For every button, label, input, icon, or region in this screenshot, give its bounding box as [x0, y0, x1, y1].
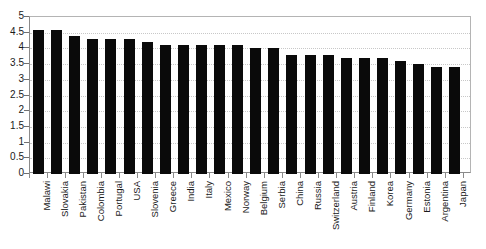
y-axis-tick-label: 1: [0, 137, 24, 147]
bar: [160, 45, 171, 174]
bar: [305, 55, 316, 174]
x-axis-tick-mark: [101, 173, 102, 178]
x-axis-tick-mark: [137, 173, 138, 178]
bar: [250, 48, 261, 174]
x-axis-tick-mark: [155, 173, 156, 178]
bar-chart: 54.543.532.521.510.50 MalawiSlovakiaPaki…: [0, 0, 486, 249]
y-axis-tick-label: 0.5: [0, 152, 24, 162]
x-axis-tick-label: Serbia: [277, 181, 287, 208]
y-axis-tick-label: 4: [0, 42, 24, 52]
y-axis-tick-label: 2: [0, 105, 24, 115]
x-axis-tick-mark: [409, 173, 410, 178]
x-axis-tick-mark: [336, 173, 337, 178]
bar: [268, 48, 279, 174]
x-axis-tick-label: India: [186, 181, 196, 202]
x-axis-tick-label: Germany: [404, 181, 414, 220]
x-axis-tick-label: Argentina: [440, 181, 450, 222]
x-axis-tick-mark: [173, 173, 174, 178]
bar: [323, 55, 334, 174]
x-axis-tick-label: Estonia: [422, 181, 432, 213]
x-axis-tick-mark: [445, 173, 446, 178]
x-axis-tick-mark: [463, 173, 464, 178]
x-axis-tick-mark: [83, 173, 84, 178]
bar: [105, 39, 116, 174]
x-axis-tick-label: Slovakia: [60, 181, 70, 217]
x-axis-tick-mark: [65, 173, 66, 178]
x-axis-tick-label: Russia: [313, 181, 323, 210]
bar: [51, 30, 62, 174]
bar: [142, 42, 153, 174]
x-axis-tick-mark: [300, 173, 301, 178]
bar: [232, 45, 243, 174]
y-axis-tick-label: 4.5: [0, 27, 24, 37]
bar: [359, 58, 370, 174]
x-axis-tick-label: Finland: [367, 181, 377, 212]
x-axis-tick-label: Norway: [241, 181, 251, 213]
x-axis-tick-label: Colombia: [96, 181, 106, 221]
plot-area: [29, 16, 471, 173]
x-axis-tick-mark: [119, 173, 120, 178]
bar: [69, 36, 80, 174]
x-axis-tick-label: Italy: [204, 181, 214, 198]
x-axis-tick-mark: [209, 173, 210, 178]
y-axis-tick-label: 5: [0, 11, 24, 21]
x-axis-tick-label: Korea: [385, 181, 395, 206]
x-axis-tick-mark: [427, 173, 428, 178]
bar: [341, 58, 352, 174]
x-axis-tick-label: Pakistan: [78, 181, 88, 217]
x-axis-tick-label: Switzerland: [331, 181, 341, 230]
x-axis-tick-mark: [372, 173, 373, 178]
bar: [124, 39, 135, 174]
x-axis-tick-label: Slovenia: [150, 181, 160, 217]
bar: [449, 67, 460, 174]
x-axis-tick-label: Japan: [458, 181, 468, 207]
y-axis-tick-label: 1.5: [0, 121, 24, 131]
bar: [178, 45, 189, 174]
x-axis-tick-label: China: [295, 181, 305, 206]
x-axis-tick-mark: [318, 173, 319, 178]
y-axis-tick-label: 3.5: [0, 58, 24, 68]
x-axis-tick-mark: [282, 173, 283, 178]
y-axis-tick-label: 0: [0, 168, 24, 178]
x-axis-tick-mark: [191, 173, 192, 178]
x-axis-tick-mark: [228, 173, 229, 178]
bar: [196, 45, 207, 174]
x-axis-tick-mark: [47, 173, 48, 178]
bar: [377, 58, 388, 174]
gridline: [30, 33, 470, 34]
bar: [87, 39, 98, 174]
x-axis-tick-mark: [390, 173, 391, 178]
bar: [214, 45, 225, 174]
x-axis-tick-label: Belgium: [259, 181, 269, 215]
x-axis-tick-mark: [354, 173, 355, 178]
x-axis-tick-label: Austria: [349, 181, 359, 211]
y-axis-tick-label: 3: [0, 74, 24, 84]
bar: [395, 61, 406, 174]
x-axis-tick-label: Malawi: [42, 181, 52, 211]
x-axis-tick-label: Mexico: [223, 181, 233, 211]
x-axis-tick-label: Portugal: [114, 181, 124, 216]
x-axis-tick-label: USA: [132, 181, 142, 201]
x-axis-tick-mark: [264, 173, 265, 178]
bar: [431, 67, 442, 174]
bar: [286, 55, 297, 174]
y-axis-tick-label: 2.5: [0, 90, 24, 100]
bar: [413, 64, 424, 174]
x-axis-tick-mark: [246, 173, 247, 178]
bar: [33, 30, 44, 174]
x-axis-tick-label: Greece: [168, 181, 178, 212]
x-axis-tick-mark: [29, 173, 30, 178]
